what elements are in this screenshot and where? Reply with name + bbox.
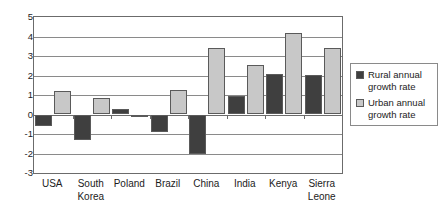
- x-axis-tick-mark: [73, 115, 74, 119]
- chart-legend: Rural annualgrowth rate Urban annualgrow…: [350, 63, 438, 126]
- x-axis-label: Brazil: [149, 177, 188, 190]
- x-axis-label: Poland: [110, 177, 149, 190]
- bar-rural: [305, 75, 322, 115]
- bar-urban: [285, 33, 302, 115]
- legend-label-rural: Rural annualgrowth rate: [368, 69, 422, 92]
- y-axis-tick-label: 4: [7, 31, 33, 40]
- x-axis-tick-mark: [265, 115, 266, 119]
- bar-urban: [247, 65, 264, 115]
- bar-rural: [35, 115, 52, 127]
- y-axis-tick-label: 3: [7, 51, 33, 60]
- bar-urban: [54, 91, 71, 114]
- y-axis-tick-label: 0: [7, 109, 33, 118]
- bar-rural: [112, 109, 129, 114]
- legend-label-urban: Urban annualgrowth rate: [368, 97, 425, 120]
- y-axis-tick-label: -1: [7, 129, 33, 138]
- y-axis: 543210-1-2-3: [0, 16, 33, 174]
- x-axis-label: China: [187, 177, 226, 190]
- bar-urban: [170, 90, 187, 115]
- x-axis-label: USA: [33, 177, 72, 190]
- x-axis-tick-mark: [188, 115, 189, 119]
- x-axis-labels: USASouthKoreaPolandBrazilChinaIndiaKenya…: [33, 177, 343, 211]
- grouped-bar-chart: 543210-1-2-3 USASouthKoreaPolandBrazilCh…: [0, 0, 441, 211]
- y-axis-tick-label: 5: [7, 12, 33, 21]
- bar-rural: [228, 96, 245, 115]
- legend-swatch-rural-icon: [356, 71, 364, 79]
- bar-urban: [324, 48, 341, 114]
- bar-rural: [266, 74, 283, 115]
- y-axis-tick-label: -3: [7, 168, 33, 177]
- x-axis-label: SouthKorea: [72, 177, 111, 203]
- y-axis-tick-label: 2: [7, 70, 33, 79]
- x-axis-tick-mark: [111, 115, 112, 119]
- bar-urban: [131, 115, 148, 117]
- plot-area: [33, 16, 343, 174]
- x-axis-tick-mark: [304, 115, 305, 119]
- bar-urban: [93, 98, 110, 115]
- x-axis-label: India: [226, 177, 265, 190]
- bar-rural: [189, 115, 206, 155]
- x-axis-tick-mark: [227, 115, 228, 119]
- bar-rural: [74, 115, 91, 140]
- x-axis-label: Kenya: [264, 177, 303, 190]
- y-axis-tick-label: -2: [7, 148, 33, 157]
- legend-item-urban: Urban annualgrowth rate: [356, 97, 433, 120]
- y-axis-tick-label: 1: [7, 90, 33, 99]
- bar-urban: [208, 48, 225, 114]
- bar-rural: [151, 115, 168, 133]
- x-axis-tick-mark: [150, 115, 151, 119]
- legend-item-rural: Rural annualgrowth rate: [356, 69, 433, 92]
- gridline: [34, 154, 342, 155]
- legend-swatch-urban-icon: [356, 99, 364, 107]
- x-axis-label: SierraLeone: [303, 177, 342, 203]
